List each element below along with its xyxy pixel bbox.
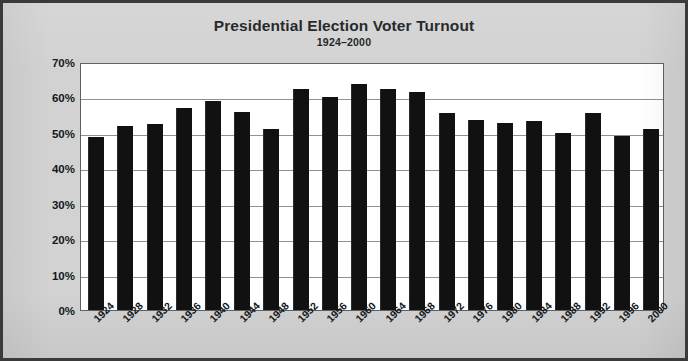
bar — [234, 112, 250, 310]
gridline-30% — [81, 206, 663, 207]
y-axis-tick-labels: 0%10%20%30%40%50%60%70% — [3, 63, 75, 311]
bar — [293, 89, 309, 310]
gridline-60% — [81, 99, 663, 100]
bar — [409, 92, 425, 310]
chart-title: Presidential Election Voter Turnout — [3, 17, 685, 35]
y-tick-label: 10% — [5, 270, 75, 282]
chart-subtitle: 1924–2000 — [3, 36, 685, 48]
gridline-50% — [81, 135, 663, 136]
bar — [205, 101, 221, 310]
bar — [614, 136, 630, 310]
bar — [147, 124, 163, 310]
y-tick-label: 30% — [5, 199, 75, 211]
bar — [351, 84, 367, 310]
bar — [526, 121, 542, 310]
bar — [263, 129, 279, 310]
y-tick-label: 40% — [5, 163, 75, 175]
y-tick-label: 20% — [5, 234, 75, 246]
x-axis-tick-labels: 1924192819321936194019441948195219561960… — [80, 312, 664, 361]
bar — [497, 123, 513, 310]
y-tick-label: 0% — [5, 305, 75, 317]
bar — [585, 113, 601, 310]
plot-area — [80, 63, 664, 311]
y-tick-label: 50% — [5, 128, 75, 140]
bar — [380, 89, 396, 310]
bar — [88, 137, 104, 310]
gridline-10% — [81, 277, 663, 278]
bar — [322, 97, 338, 310]
bar — [468, 120, 484, 310]
gridline-40% — [81, 170, 663, 171]
bar — [643, 129, 659, 310]
bar — [117, 126, 133, 310]
bar — [555, 133, 571, 310]
y-tick-label: 70% — [5, 57, 75, 69]
bar — [176, 108, 192, 310]
gridline-20% — [81, 241, 663, 242]
y-tick-label: 60% — [5, 92, 75, 104]
chart-figure: Presidential Election Voter Turnout 1924… — [0, 0, 688, 361]
bar — [439, 113, 455, 310]
